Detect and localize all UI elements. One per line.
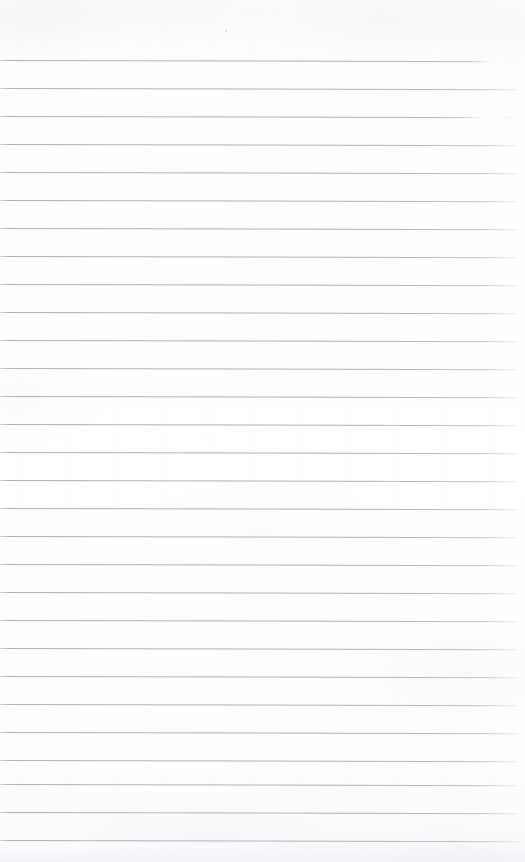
ruled-line (0, 88, 517, 90)
ruled-line (0, 60, 517, 62)
ruled-line (0, 508, 517, 510)
ruled-line (0, 784, 517, 786)
ruled-line (0, 284, 517, 286)
ruled-line-fade-artifact (470, 60, 525, 63)
ruled-line (0, 592, 517, 594)
ruled-line (0, 144, 517, 146)
ruled-line (0, 704, 517, 706)
ruled-line-fade-artifact (455, 116, 525, 119)
ruled-line (0, 564, 517, 566)
ruled-line (0, 760, 517, 762)
ruled-line (0, 200, 517, 202)
ruled-line (0, 396, 517, 398)
ruled-line (0, 480, 517, 482)
ruled-line (0, 732, 517, 734)
ruled-line (0, 312, 517, 314)
ruled-line (0, 172, 517, 174)
ruled-lines-layer (0, 0, 525, 862)
ruled-line (0, 452, 517, 454)
ruled-line (0, 676, 517, 678)
ruled-line (0, 368, 517, 370)
scan-speck-artifact (225, 30, 227, 32)
ruled-line (0, 256, 517, 258)
ruled-line (0, 340, 517, 342)
ruled-line (0, 536, 517, 538)
ruled-line (0, 116, 517, 118)
scanned-page (0, 0, 525, 862)
ruled-line (0, 812, 517, 814)
ruled-line (0, 840, 521, 842)
ruled-line (0, 228, 517, 230)
ruled-line (0, 648, 517, 650)
ruled-line (0, 620, 517, 622)
ruled-line (0, 424, 517, 426)
